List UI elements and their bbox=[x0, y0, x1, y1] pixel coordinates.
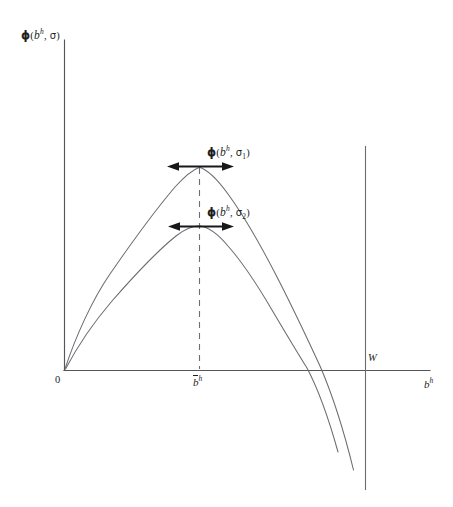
figure-root: ϕ(bh, σ) 0 bh W bh ϕ(bh, σ1) ϕ(bh, σ2) bbox=[0, 0, 453, 507]
superscript-h: h bbox=[430, 376, 434, 385]
arrow-head-right-sigma-1 bbox=[222, 162, 234, 171]
arrow-head-right-sigma-2 bbox=[222, 222, 234, 231]
phi-glyph: ϕ bbox=[21, 28, 30, 42]
curve-sigma-2 bbox=[66, 226, 339, 452]
chart-canvas bbox=[0, 0, 453, 507]
curve-label-sigma-2: ϕ(bh, σ2) bbox=[207, 205, 250, 221]
origin-label: 0 bbox=[55, 375, 60, 386]
y-axis-label: ϕ(bh, σ) bbox=[21, 28, 60, 41]
close-paren: ) bbox=[246, 207, 250, 218]
close-paren: ) bbox=[246, 147, 250, 158]
close-paren: ) bbox=[56, 30, 60, 41]
arrow-head-left-sigma-2 bbox=[168, 222, 180, 231]
superscript-h: h bbox=[199, 374, 203, 383]
phi-glyph: ϕ bbox=[207, 145, 216, 159]
x-axis-label: bh bbox=[424, 377, 433, 390]
curve-label-sigma-1: ϕ(bh, σ1) bbox=[207, 145, 250, 161]
x-tick-label-bbar: bh bbox=[193, 375, 202, 388]
wealth-marker-label: W bbox=[368, 353, 377, 364]
tangent-marker-sigma-1 bbox=[167, 162, 234, 171]
phi-glyph: ϕ bbox=[207, 205, 216, 219]
tangent-marker-sigma-2 bbox=[168, 222, 234, 231]
overbar-group: b bbox=[193, 377, 199, 388]
arrow-head-left-sigma-1 bbox=[167, 162, 179, 171]
variable-b: b bbox=[193, 376, 199, 388]
